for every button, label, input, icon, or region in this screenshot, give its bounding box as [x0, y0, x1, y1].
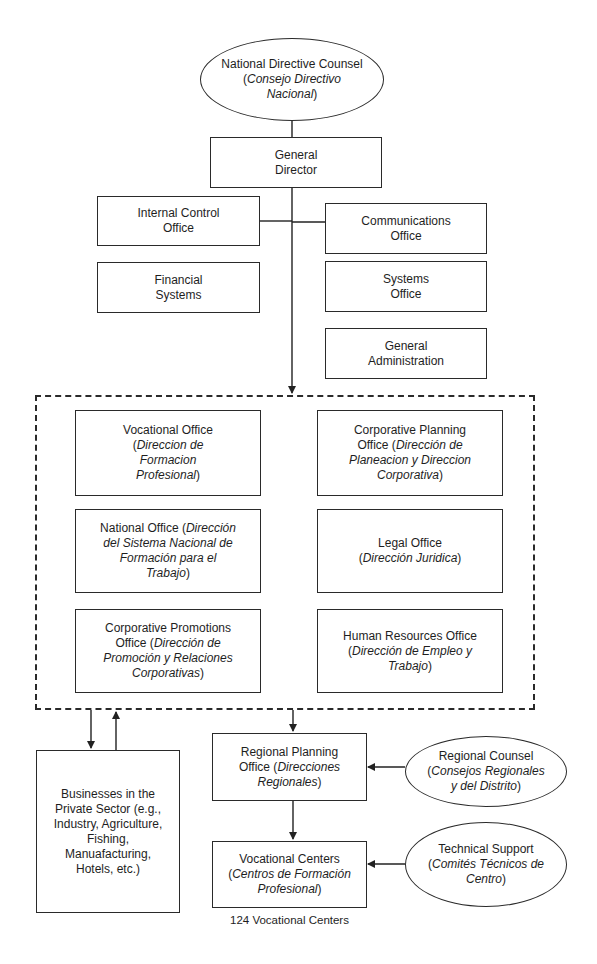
node-label: Private Sector (e.g., — [54, 802, 163, 817]
spanish-name: Promoción y Relaciones — [103, 651, 232, 665]
financial-systems-node: Financial Systems — [97, 262, 260, 313]
spanish-name: Comités Técnicos de — [432, 857, 544, 871]
national-directive-counsel-node: National Directive Counsel (Consejo Dire… — [200, 38, 384, 121]
legal-office-node: Legal Office (Dirección Juridica) — [317, 509, 503, 593]
paren: ) — [196, 468, 200, 482]
node-label: General — [368, 339, 444, 354]
node-label: Regional Counsel — [427, 749, 544, 764]
spanish-name: Corporativa — [377, 468, 439, 482]
general-director-node: General Director — [210, 137, 382, 188]
node-label: Office ( — [115, 636, 153, 650]
node-label: Technical Support — [428, 842, 544, 857]
spanish-name: Nacional — [267, 87, 314, 101]
node-label: Office — [383, 287, 429, 302]
spanish-name: Dirección de — [396, 438, 463, 452]
regional-counsel-node: Regional Counsel (Consejos Regionales y … — [405, 736, 567, 807]
regional-planning-office-node: Regional Planning Office (Direcciones Re… — [212, 733, 367, 801]
node-label: Office ( — [239, 760, 277, 774]
paren: ) — [457, 551, 461, 565]
spanish-name: Dirección de Empleo y — [352, 644, 472, 658]
spanish-name: Dirección de — [154, 636, 221, 650]
node-label: Businesses in the — [54, 787, 163, 802]
spanish-name: Direcciones — [277, 760, 340, 774]
corporative-planning-office-node: Corporative Planning Office (Dirección d… — [317, 410, 503, 496]
node-label: Vocational Centers — [228, 852, 351, 867]
general-administration-node: General Administration — [325, 328, 487, 379]
spanish-name: del Sistema Nacional de — [103, 536, 232, 550]
systems-office-node: Systems Office — [325, 261, 487, 312]
node-label: Administration — [368, 354, 444, 369]
node-label: Systems — [154, 288, 202, 303]
node-label: Financial — [154, 273, 202, 288]
spanish-name: y del Distrito — [451, 779, 517, 793]
node-label: General — [275, 148, 318, 163]
node-label: Office — [361, 229, 450, 244]
technical-support-node: Technical Support (Comités Técnicos de C… — [405, 822, 567, 907]
businesses-private-sector-node: Businesses in the Private Sector (e.g., … — [36, 750, 180, 913]
node-label: Vocational Office — [123, 423, 213, 438]
spanish-name: Planeacion y Direccion — [349, 453, 471, 467]
spanish-name: Consejo Directivo — [247, 72, 341, 86]
human-resources-office-node: Human Resources Office (Dirección de Emp… — [317, 609, 503, 693]
node-label: National Office ( — [100, 521, 186, 535]
node-label: Regional Planning — [239, 745, 340, 760]
spanish-name: Formación para el — [120, 551, 217, 565]
spanish-name: Profesional — [136, 468, 196, 482]
spanish-name: Regionales — [257, 775, 317, 789]
paren: ) — [517, 779, 521, 793]
paren: ) — [428, 659, 432, 673]
paren: ) — [502, 872, 506, 886]
spanish-name: Trabajo — [388, 659, 428, 673]
spanish-name: Profesional — [257, 882, 317, 896]
internal-control-office-node: Internal Control Office — [97, 196, 260, 246]
node-label: National Directive Counsel — [221, 57, 362, 72]
vocational-centers-node: Vocational Centers (Centros de Formación… — [212, 841, 367, 908]
node-label: Manuafacturing, — [54, 847, 163, 862]
spanish-name: Consejos Regionales — [431, 764, 544, 778]
node-label: Fishing, — [54, 832, 163, 847]
spanish-name: Direccion de — [137, 438, 204, 452]
spanish-name: Dirección Juridica — [363, 551, 458, 565]
corporative-promotions-office-node: Corporative Promotions Office (Dirección… — [75, 609, 261, 693]
paren: ) — [318, 775, 322, 789]
national-office-node: National Office (Dirección del Sistema N… — [75, 509, 261, 593]
node-label: Communications — [361, 214, 450, 229]
spanish-name: Trabajo — [146, 566, 186, 580]
spanish-name: Formacion — [140, 453, 197, 467]
spanish-name: Dirección — [186, 521, 236, 535]
node-label: Hotels, etc.) — [54, 862, 163, 877]
node-label: Director — [275, 163, 318, 178]
node-label: Industry, Agriculture, — [54, 817, 163, 832]
vocational-office-node: Vocational Office (Direccion de Formacio… — [75, 410, 261, 496]
spanish-name: Centros de Formación — [232, 867, 351, 881]
node-label: Corporative Promotions — [103, 621, 232, 636]
node-label: Office — [137, 221, 219, 236]
communications-office-node: Communications Office — [325, 203, 487, 254]
node-label: Internal Control — [137, 206, 219, 221]
node-label: Corporative Planning — [349, 423, 471, 438]
paren: ) — [313, 87, 317, 101]
paren: ) — [186, 566, 190, 580]
spanish-name: Corporativas — [132, 666, 200, 680]
vocational-centers-count-caption: 124 Vocational Centers — [212, 914, 367, 926]
node-label: Human Resources Office — [343, 629, 477, 644]
spanish-name: Centro — [466, 872, 502, 886]
paren: ) — [318, 882, 322, 896]
node-label: Office ( — [357, 438, 395, 452]
paren: ) — [200, 666, 204, 680]
paren: ) — [439, 468, 443, 482]
node-label: Legal Office — [359, 536, 462, 551]
node-label: Systems — [383, 272, 429, 287]
